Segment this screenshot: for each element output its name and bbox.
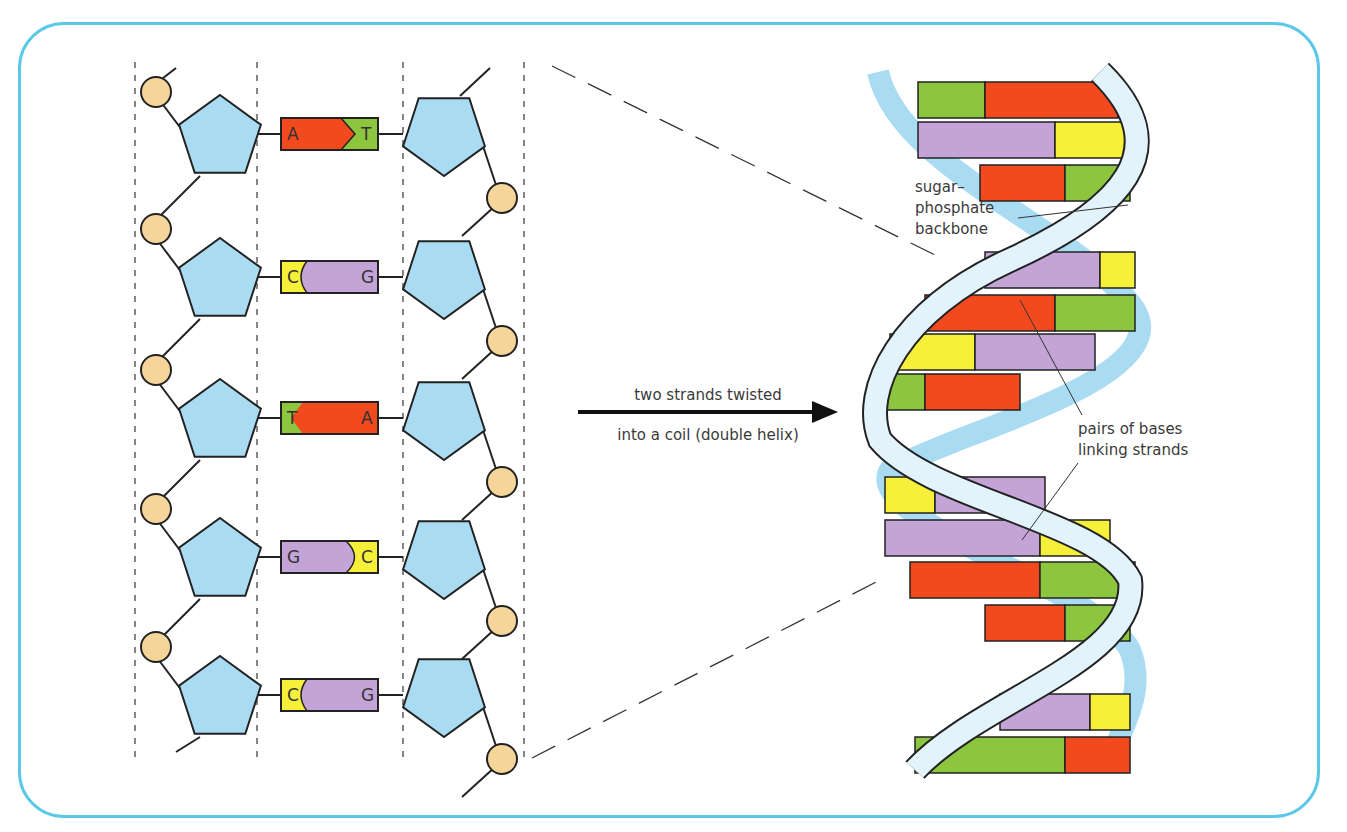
base-pair-CG: CG: [258, 679, 403, 711]
sugar-pentagon-left: [179, 95, 261, 173]
backbone-label-2: phosphate: [915, 199, 994, 217]
phosphate-circle-right: [487, 183, 517, 213]
base-letter-right: G: [361, 267, 374, 287]
base-letter-left: C: [287, 685, 299, 705]
arrow-head: [812, 401, 838, 423]
backbone-label-3: backbone: [915, 220, 988, 238]
base-letter-right: C: [361, 547, 373, 567]
sugar-pentagon-left: [179, 379, 261, 457]
sugar-pentagon-left: [179, 518, 261, 596]
base-letter-right: G: [361, 685, 374, 705]
helix-base-pair: [885, 374, 1020, 410]
sugar-pentagon-right: [403, 382, 485, 460]
base-pair-CG: CG: [258, 261, 403, 293]
sugar-pentagon-right: [403, 241, 485, 319]
base-letter-left: A: [287, 124, 299, 144]
phosphate-circle-right: [487, 326, 517, 356]
helix-base-pair: [918, 122, 1138, 158]
sugar-pentagon-right: [403, 521, 485, 599]
backbone-label-1: sugar–: [915, 178, 965, 196]
bases-label-1: pairs of bases: [1078, 420, 1182, 438]
base-letter-right: A: [361, 408, 373, 428]
phosphate-circle-left: [141, 77, 171, 107]
base-letter-left: T: [286, 408, 298, 428]
phosphate-circle-left: [141, 632, 171, 662]
phosphate-circle-left: [141, 355, 171, 385]
sugar-pentagon-left: [179, 656, 261, 734]
arrow-label-line2: into a coil (double helix): [578, 426, 838, 444]
base-letter-left: G: [287, 547, 300, 567]
phosphate-circle-right: [487, 467, 517, 497]
phosphate-circle-left: [141, 214, 171, 244]
base-pair-AT: AT: [258, 118, 403, 150]
dna-diagram: ATCGTAGCCG: [0, 0, 1347, 832]
phosphate-circle-left: [141, 494, 171, 524]
base-pair-TA: TA: [258, 402, 403, 434]
phosphate-circle-right: [487, 744, 517, 774]
sugar-pentagon-right: [403, 659, 485, 737]
helix-base-pair: [918, 82, 1118, 118]
base-letter-left: C: [287, 267, 299, 287]
base-pair-GC: GC: [258, 541, 403, 573]
phosphate-circle-right: [487, 606, 517, 636]
projection-line: [532, 580, 880, 758]
bases-label-2: linking strands: [1078, 441, 1188, 459]
helix-base-pair: [910, 562, 1135, 598]
helix-base-pair: [890, 334, 1095, 370]
arrow-label-line1: two strands twisted: [578, 386, 838, 404]
sugar-pentagon-right: [403, 98, 485, 176]
sugar-pentagon-left: [179, 238, 261, 316]
base-letter-right: T: [360, 124, 372, 144]
